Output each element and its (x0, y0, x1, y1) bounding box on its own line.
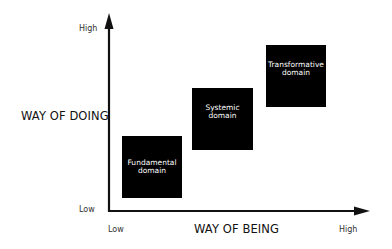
fundamental-domain-box: Fundamental domain (122, 136, 182, 198)
y-axis-arrow-icon (105, 13, 114, 29)
y-axis-low-label: Low (79, 205, 95, 214)
fundamental-domain-label-line2: domain (127, 167, 176, 176)
y-axis-title: WAY OF DOING (21, 109, 109, 123)
x-axis-low-label: Low (108, 225, 124, 234)
y-axis-high-label: High (79, 24, 97, 33)
systemic-domain-label-line2: domain (205, 112, 239, 121)
transformative-domain-box: Transformative domain (266, 45, 326, 107)
x-axis-title: WAY OF BEING (194, 222, 279, 236)
systemic-domain-box: Systemic domain (192, 88, 253, 150)
transformative-domain-label-line2: domain (268, 69, 324, 78)
x-axis-high-label: High (339, 225, 357, 234)
x-axis-arrow-icon (354, 207, 370, 216)
